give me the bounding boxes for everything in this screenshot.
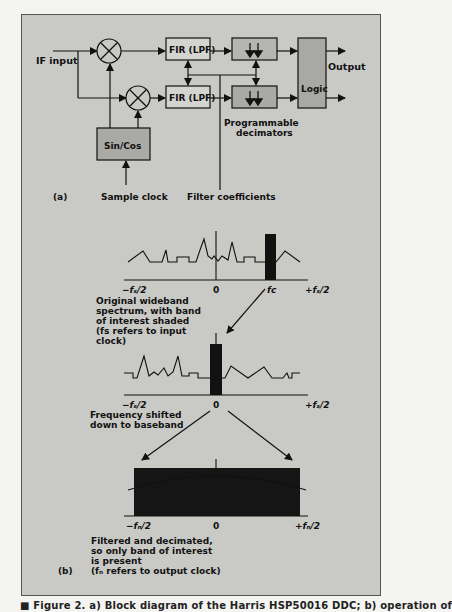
spectrum-decimated [124,459,308,516]
svg-text:clock): clock) [96,336,126,346]
zoom-arrow-right [228,411,292,460]
spec1-tick-fc: fᴄ [267,285,277,295]
panel-b-label: (b) [58,566,73,576]
svg-text:(fs refers to input: (fs refers to input [96,326,187,336]
svg-text:down to baseband: down to baseband [90,420,183,430]
svg-text:is present: is present [91,556,142,566]
spec3-tick-right: +fₙ/2 [295,521,320,531]
figure-caption: ■ Figure 2. a) Block diagram of the Harr… [20,600,452,611]
svg-text:Frequency shifted: Frequency shifted [90,410,181,420]
decimators-label-2: decimators [236,128,293,138]
spec1-tick-zero: 0 [213,285,219,295]
band-of-interest [265,234,276,280]
svg-text:Original wideband: Original wideband [96,296,189,306]
baseband-band [210,344,222,395]
fir-top-label: FIR (LPF) [169,45,215,55]
spec2-tick-zero: 0 [213,400,219,410]
sin-cos-label: Sin/Cos [104,141,141,151]
output-label: Output [328,61,366,72]
decimators-label-1: Programmable [224,118,299,128]
svg-text:Filtered and decimated,: Filtered and decimated, [91,536,213,546]
spec2-caption: Frequency shifted down to baseband [90,410,183,430]
spec1-tick-left: −fₛ/2 [122,285,146,295]
logic-label: Logic [301,84,328,94]
spec2-tick-left: −fₛ/2 [122,400,146,410]
svg-text:so only band of interest: so only band of interest [91,546,213,556]
spec3-tick-left: −fₙ/2 [126,521,151,531]
spectrum-original [124,231,308,280]
spec3-tick-zero: 0 [213,521,219,531]
spec3-caption: Filtered and decimated, so only band of … [91,536,221,576]
fir-bottom-label: FIR (LPF) [169,93,215,103]
if-input-label: IF input [36,55,78,66]
spec2-tick-right: +fₛ/2 [305,400,329,410]
spec1-caption: Original wideband spectrum, with band of… [96,296,201,346]
shift-arrow [227,289,265,333]
spec1-tick-right: +fₛ/2 [305,285,329,295]
filter-coefficients-label: Filter coefficients [187,192,276,202]
svg-text:of interest shaded: of interest shaded [96,316,189,326]
sample-clock-label: Sample clock [101,192,169,202]
svg-text:(fₙ refers to output clock): (fₙ refers to output clock) [91,566,221,576]
block-diagram [53,38,345,190]
svg-text:spectrum, with band: spectrum, with band [96,306,201,316]
panel-a-label: (a) [53,192,67,202]
